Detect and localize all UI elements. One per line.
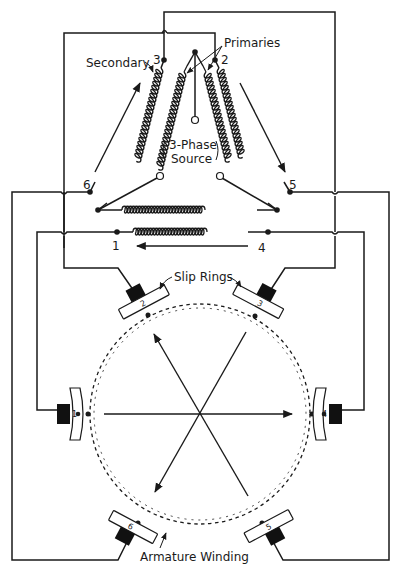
terminal-6-label: 6 bbox=[83, 178, 91, 192]
slip-ring-6: 6 bbox=[102, 510, 157, 555]
terminal-2-label: 2 bbox=[221, 53, 229, 67]
source-label-line1: 3-Phase bbox=[169, 138, 217, 152]
outer-wiring bbox=[12, 12, 389, 560]
armature bbox=[86, 304, 315, 526]
slip-ring-2: 2 bbox=[112, 273, 169, 319]
slip-rings-label: Slip Rings bbox=[174, 270, 233, 284]
svg-text:4: 4 bbox=[322, 410, 327, 419]
terminal-4-label: 4 bbox=[258, 241, 266, 255]
secondary-label: Secondary bbox=[86, 56, 150, 70]
primaries-label: Primaries bbox=[224, 36, 280, 50]
terminal-3-label: 3 bbox=[153, 53, 161, 67]
terminal-5-label: 5 bbox=[289, 178, 297, 192]
slip-ring-5: 5 bbox=[244, 509, 299, 554]
primary-coil-left bbox=[184, 66, 187, 72]
transformer-armature-diagram: Primaries Secondary 3-Phase Source 3 2 6… bbox=[0, 0, 396, 567]
source-label-line2: Source bbox=[171, 152, 212, 166]
terminal-1-label: 1 bbox=[112, 239, 120, 253]
svg-text:1: 1 bbox=[72, 410, 77, 419]
slip-ring-4: 4 bbox=[313, 388, 342, 440]
armature-winding-label: Armature Winding bbox=[140, 550, 249, 564]
slip-ring-1: 1 bbox=[57, 388, 83, 440]
